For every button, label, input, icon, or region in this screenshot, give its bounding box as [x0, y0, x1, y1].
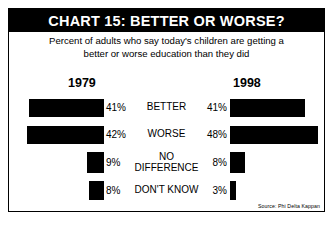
bar-zone-right [230, 121, 318, 148]
year-label-right: 1998 [233, 76, 261, 90]
category-label: WORSE [132, 129, 201, 140]
category-label-line: DON'T KNOW [132, 185, 201, 196]
category-label-line: BETTER [132, 102, 201, 113]
chart-container: CHART 15: BETTER OR WORSE? Percent of ad… [8, 8, 325, 212]
value-label-1979: 42% [106, 129, 132, 140]
bar-zone-right [230, 177, 318, 203]
category-label-line: DIFFERENCE [132, 163, 201, 174]
bar-zone-right [230, 148, 318, 177]
bar-1979 [27, 126, 104, 144]
category-label-line: NO [132, 152, 201, 163]
bar-1979 [29, 99, 104, 117]
value-label-1979: 9% [106, 157, 132, 168]
bar-1998 [230, 181, 236, 200]
bar-zone-left [19, 148, 104, 177]
bar-1979 [89, 181, 104, 200]
category-label: NODIFFERENCE [132, 152, 201, 173]
chart-row: 8%DON'T KNOW3% [9, 177, 324, 203]
bar-1998 [230, 99, 305, 117]
chart-title-bar: CHART 15: BETTER OR WORSE? [9, 9, 324, 32]
value-label-1979: 41% [106, 102, 132, 113]
chart-row: 42%WORSE48% [9, 121, 324, 148]
value-label-1998: 48% [201, 129, 227, 140]
value-label-1998: 41% [201, 102, 227, 113]
value-label-1979: 8% [106, 185, 132, 196]
page-title: CHART 15: BETTER OR WORSE? [48, 13, 284, 29]
chart-row: 41%BETTER41% [9, 94, 324, 121]
chart-subtitle: Percent of adults who say today's childr… [9, 34, 324, 60]
bar-1998 [230, 152, 245, 173]
subtitle-line-2: better or worse education than they did [9, 47, 324, 60]
bar-zone-right [230, 94, 318, 121]
bar-zone-left [19, 177, 104, 203]
bar-zone-left [19, 121, 104, 148]
year-header-row: 1979 1998 [9, 76, 324, 92]
category-label-line: WORSE [132, 129, 201, 140]
chart-row: 9%NODIFFERENCE8% [9, 148, 324, 177]
category-label: BETTER [132, 102, 201, 113]
value-label-1998: 8% [201, 157, 227, 168]
value-label-1998: 3% [201, 185, 227, 196]
bar-zone-left [19, 94, 104, 121]
source-note: Source: Phi Delta Kappan [258, 203, 320, 209]
category-label: DON'T KNOW [132, 185, 201, 196]
chart-rows: 41%BETTER41%42%WORSE48%9%NODIFFERENCE8%8… [9, 94, 324, 203]
bar-1979 [87, 152, 104, 173]
year-label-left: 1979 [68, 76, 96, 90]
bar-1998 [230, 126, 318, 144]
subtitle-line-1: Percent of adults who say today's childr… [9, 34, 324, 47]
